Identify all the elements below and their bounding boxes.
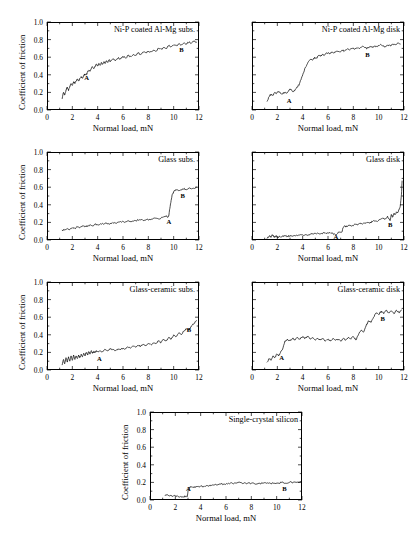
- x-axis-label: Normal load, mN: [150, 513, 302, 523]
- y-tick-label: 1.0: [126, 408, 146, 417]
- x-tick-label: 8: [241, 503, 261, 512]
- transition-point-label-b: B: [282, 485, 286, 492]
- x-tick-label: 2: [165, 503, 185, 512]
- friction-figure: Ni-P coated Al-Mg subs.024681012Normal l…: [0, 0, 412, 545]
- x-tick-label: 4: [191, 503, 211, 512]
- plot-canvas: [0, 0, 412, 545]
- panel-title: Single-crystal silicon: [229, 415, 298, 424]
- y-axis-label: Coefficient of friction: [120, 425, 130, 500]
- chart-panel: Single-crystal silicon024681012Normal lo…: [0, 0, 412, 545]
- transition-point-label-a: A: [186, 485, 191, 492]
- x-tick-label: 6: [216, 503, 236, 512]
- x-tick-label: 10: [267, 503, 287, 512]
- x-tick-label: 12: [292, 503, 312, 512]
